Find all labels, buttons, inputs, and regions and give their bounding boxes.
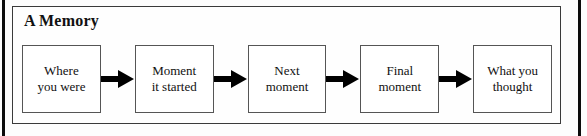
flow-node-2[interactable]: Moment it started: [135, 45, 214, 113]
flow-node-5[interactable]: What you thought: [473, 45, 552, 113]
flow-arrow-1: [101, 67, 135, 91]
flow-node-4[interactable]: Final moment: [360, 45, 439, 113]
memory-flowchart-figure: A Memory Where you were Moment it starte…: [0, 0, 587, 136]
flow-node-3[interactable]: Next moment: [248, 45, 327, 113]
flow-arrow-3: [326, 67, 360, 91]
left-edge-rule: [2, 0, 5, 136]
flow-arrow-2: [214, 67, 248, 91]
flow-sequence: Where you were Moment it started Next mo…: [22, 45, 552, 113]
flow-node-1[interactable]: Where you were: [22, 45, 101, 113]
figure-title: A Memory: [24, 12, 99, 30]
right-edge-rule: [578, 0, 581, 136]
flow-arrow-4: [439, 67, 473, 91]
